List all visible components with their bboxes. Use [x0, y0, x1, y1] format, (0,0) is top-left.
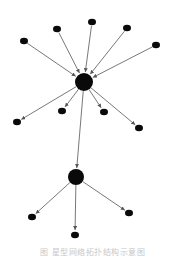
edge-in4-to-hub1: [90, 31, 124, 74]
edge-hub1-to-out3: [89, 89, 101, 107]
node-out2: [58, 108, 66, 114]
node-out1: [13, 119, 21, 125]
node-out4: [135, 125, 143, 131]
edge-in1-to-hub1: [27, 43, 75, 76]
node-in2: [53, 26, 61, 32]
node-hub1: [75, 73, 93, 91]
node-in4: [123, 25, 131, 31]
node-in5: [152, 42, 160, 48]
edge-hub1-to-out4: [91, 88, 135, 125]
edge-hub2-to-leaf3: [83, 181, 125, 210]
node-out3: [100, 109, 108, 115]
node-in1: [20, 38, 28, 44]
node-leaf3: [125, 210, 133, 216]
node-leaf2: [71, 232, 79, 238]
nodes-group: [13, 19, 160, 238]
edge-hub2-to-leaf1: [36, 182, 70, 213]
edge-in5-to-hub1: [93, 47, 153, 78]
edges-group: [21, 26, 152, 230]
edge-hub1-to-hub2: [77, 91, 83, 168]
node-in3: [88, 19, 96, 25]
edge-in3-to-hub1: [85, 26, 91, 72]
edge-hub2-to-leaf2: [75, 185, 76, 230]
figure-caption: 图 星型网络拓扑结构示意图: [40, 246, 170, 257]
node-hub2: [68, 169, 84, 185]
node-leaf1: [28, 214, 36, 220]
